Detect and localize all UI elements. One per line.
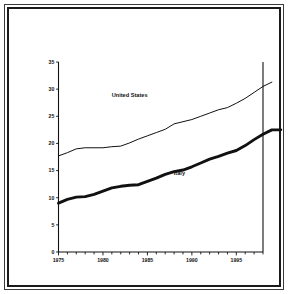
plot-area: 0510152025303519751980198519901995United… bbox=[0, 0, 288, 294]
y-tick-label: 35 bbox=[49, 59, 55, 65]
line-chart-svg: 0510152025303519751980198519901995United… bbox=[0, 0, 288, 294]
series-label-united-states: United States bbox=[112, 92, 148, 98]
y-tick-label: 25 bbox=[49, 113, 55, 119]
chart-figure: 0510152025303519751980198519901995United… bbox=[0, 0, 288, 294]
y-tick-label: 20 bbox=[49, 140, 55, 146]
y-tick-label: 15 bbox=[49, 167, 55, 173]
y-tick-label: 30 bbox=[49, 86, 55, 92]
series-label-italy: Italy bbox=[174, 170, 186, 176]
x-tick-label: 1990 bbox=[186, 257, 198, 263]
x-tick-label: 1985 bbox=[142, 257, 154, 263]
x-tick-label: 1975 bbox=[53, 257, 65, 263]
y-tick-label: 0 bbox=[51, 249, 54, 255]
series-line-italy bbox=[59, 130, 281, 203]
series-line-united-states bbox=[59, 82, 272, 156]
y-tick-label: 5 bbox=[51, 222, 54, 228]
x-tick-label: 1980 bbox=[97, 257, 109, 263]
x-tick-label: 1995 bbox=[231, 257, 243, 263]
y-tick-label: 10 bbox=[49, 195, 55, 201]
